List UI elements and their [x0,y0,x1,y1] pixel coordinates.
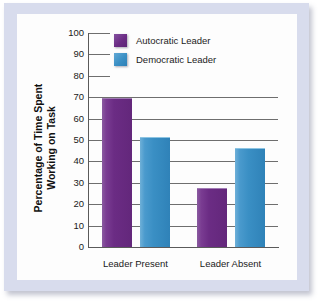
y-tick-label-60: 60 [58,114,84,124]
y-tick-label-0: 0 [58,242,84,252]
legend-swatch-autocratic [114,34,127,47]
y-tick-label-10: 10 [58,221,84,231]
y-tick-label-40: 40 [58,156,84,166]
y-axis-title-line-1: Percentage of Time Spent [32,84,45,213]
chart-legend: Autocratic Leader Democratic Leader [114,32,216,70]
legend-label-autocratic: Autocratic Leader [136,35,210,46]
bar-autocratic-leader-present [102,98,132,247]
bar-democratic-leader-present [140,137,170,247]
y-axis-tick-labels: 1009080706050403020100 [56,33,84,247]
x-tick-label-leader-present: Leader Present [103,258,168,269]
legend-swatch-democratic [114,53,127,66]
y-tick-label-80: 80 [58,71,84,81]
y-axis-title: Percentage of Time Spent Working on Task [30,60,60,236]
x-axis-tick-labels: Leader PresentLeader Absent [88,258,279,272]
legend-label-democratic: Democratic Leader [136,54,216,65]
y-tick-label-100: 100 [58,28,84,38]
y-tick-label-20: 20 [58,199,84,209]
legend-item-democratic: Democratic Leader [114,51,216,68]
y-axis-title-line-2: Working on Task [45,106,58,190]
y-tick-label-70: 70 [58,92,84,102]
x-tick-label-leader-absent: Leader Absent [200,258,261,269]
x-axis-line [88,247,279,248]
y-tick-label-50: 50 [58,135,84,145]
bar-autocratic-leader-absent [197,188,227,247]
legend-item-autocratic: Autocratic Leader [114,32,216,49]
y-tick-label-30: 30 [58,178,84,188]
bar-democratic-leader-absent [235,148,265,247]
y-tick-label-90: 90 [58,49,84,59]
